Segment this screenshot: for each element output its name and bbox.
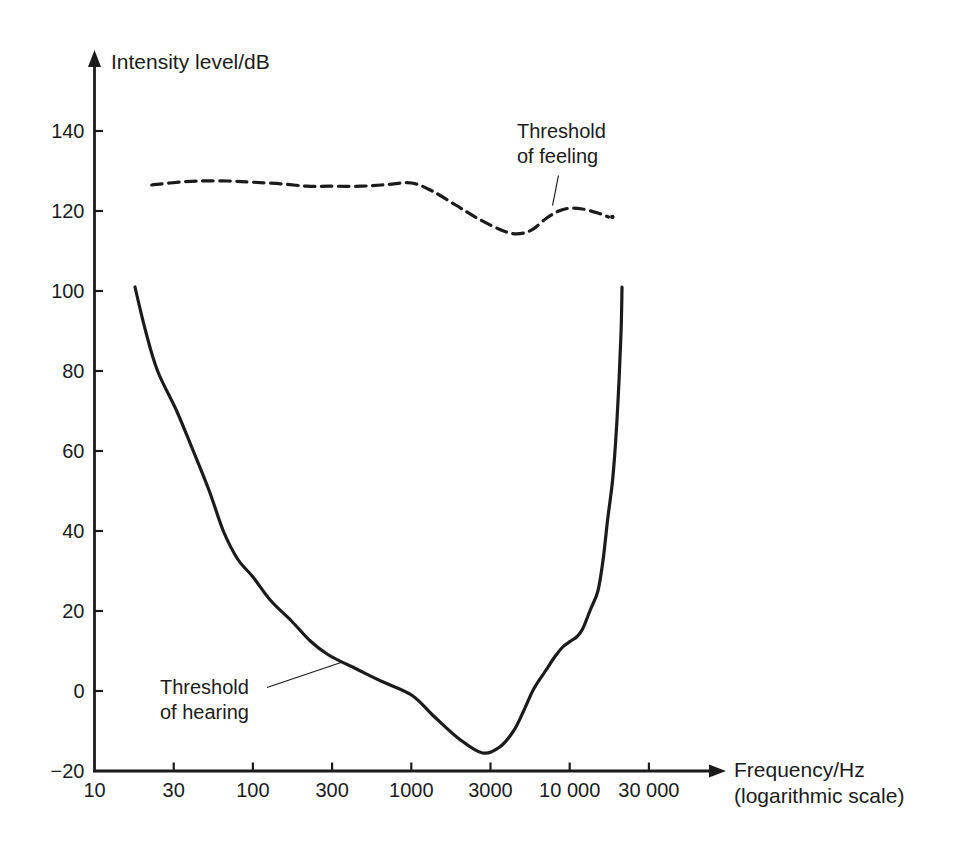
feeling-leader-line <box>553 176 559 206</box>
x-tick-label: 30 000 <box>618 779 679 801</box>
y-tick-label: 80 <box>62 360 84 382</box>
y-axis-arrowhead <box>88 50 101 67</box>
threshold-of-feeling-curve <box>152 181 609 234</box>
figure-page: 140120100806040200−201030100300100030001… <box>0 0 953 858</box>
y-tick-label: 0 <box>73 680 84 702</box>
x-tick-label: 10 <box>83 779 105 801</box>
annotation-text: of feeling <box>517 144 606 169</box>
annotation-text: Threshold <box>517 119 606 144</box>
y-tick-label: 60 <box>62 440 84 462</box>
x-tick-label: 100 <box>236 779 269 801</box>
x-axis-arrowhead <box>709 765 726 778</box>
y-tick-label: 40 <box>62 520 84 542</box>
x-axis-title-line2: (logarithmic scale) <box>734 783 904 809</box>
annotation-text: of hearing <box>160 700 249 725</box>
annotation-threshold-of-feeling: Threshold of feeling <box>517 119 606 169</box>
y-tick-label: −20 <box>51 760 85 782</box>
y-tick-label: 100 <box>51 280 84 302</box>
x-tick-label: 1000 <box>389 779 434 801</box>
hearing-leader-line <box>267 663 341 688</box>
x-tick-label: 3000 <box>468 779 513 801</box>
y-tick-label: 120 <box>51 200 84 222</box>
annotation-text: Threshold <box>160 675 249 700</box>
y-tick-label: 140 <box>51 120 84 142</box>
x-axis-title-line1: Frequency/Hz <box>734 757 904 783</box>
curve-end-dot <box>610 215 615 220</box>
x-axis-title: Frequency/Hz (logarithmic scale) <box>734 757 904 809</box>
y-tick-label: 20 <box>62 600 84 622</box>
y-axis-title: Intensity level/dB <box>111 49 270 74</box>
x-tick-label: 300 <box>315 779 348 801</box>
x-tick-label: 30 <box>163 779 185 801</box>
annotation-threshold-of-hearing: Threshold of hearing <box>160 675 249 725</box>
x-tick-label: 10 000 <box>539 779 600 801</box>
audiogram-chart: 140120100806040200−201030100300100030001… <box>0 0 953 858</box>
